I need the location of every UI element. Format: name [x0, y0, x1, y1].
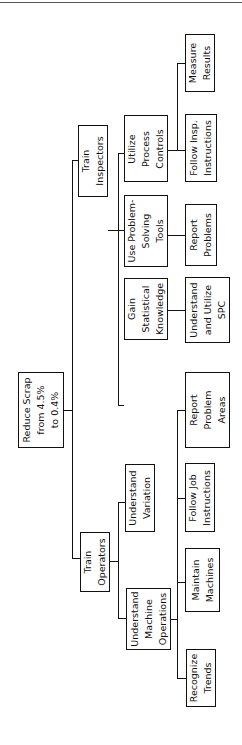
node-label: Gain Statistical Knowledge: [125, 283, 167, 335]
node-understand-utilize-spc: Understand and Utilize SPC: [185, 277, 230, 343]
connector: [168, 235, 185, 236]
connector: [118, 502, 119, 618]
node-label: Measure Results: [186, 43, 214, 83]
page-header-rule: [0, 2, 242, 3]
node-follow-job-instructions: Follow Job Instructions: [185, 463, 215, 532]
connector: [177, 498, 185, 499]
node-label: Understand and Utilize SPC: [187, 282, 229, 337]
connector: [118, 153, 119, 405]
connector: [118, 618, 126, 619]
node-label: Understand Variation: [126, 470, 154, 525]
node-label: Understand Machine Operations: [128, 591, 170, 646]
node-maintain-machines: Maintain Machines: [185, 548, 220, 612]
node-report-problems: Report Problems: [185, 204, 217, 266]
connector: [177, 678, 186, 679]
node-understand-variation: Understand Variation: [125, 464, 155, 532]
connector: [168, 310, 185, 311]
connector: [64, 410, 72, 411]
node-root-reduce-scrap: Reduce Scrap from 4.5% to 0.4%: [18, 372, 64, 448]
node-label: Follow Job Instructions: [186, 470, 214, 526]
node-label: Maintain Machines: [189, 558, 217, 603]
node-label: Reduce Scrap from 4.5% to 0.4%: [20, 377, 62, 442]
connector: [72, 558, 80, 559]
connector: [110, 561, 118, 562]
node-follow-insp-instructions: Follow Insp. Instructions: [185, 114, 217, 182]
node-use-problem-solving-tools: Use Problem- Solving Tools: [124, 195, 168, 267]
node-measure-results: Measure Results: [185, 34, 215, 92]
node-label: Use Problem- Solving Tools: [125, 199, 167, 262]
node-understand-machine-operations: Understand Machine Operations: [126, 588, 171, 650]
node-train-inspectors: Train Inspectors: [78, 125, 108, 197]
connector: [118, 502, 125, 503]
node-label: Train Inspectors: [79, 136, 107, 185]
node-label: Report Problem Areas: [187, 391, 229, 430]
connector: [177, 582, 185, 583]
node-utilize-process-controls: Utilize Process Controls: [124, 115, 168, 182]
node-label: Report Problems: [187, 213, 215, 257]
connector: [177, 410, 185, 411]
connector: [118, 405, 124, 406]
node-gain-statistical-knowledge: Gain Statistical Knowledge: [124, 278, 168, 340]
node-report-problem-areas: Report Problem Areas: [185, 372, 230, 448]
connector: [168, 150, 177, 151]
node-label: Follow Insp. Instructions: [187, 120, 215, 176]
node-train-operators: Train Operators: [80, 532, 110, 592]
connector: [177, 63, 185, 64]
connector: [108, 230, 118, 231]
node-label: Train Operators: [81, 538, 109, 585]
connector: [177, 410, 178, 678]
node-label: Utilize Process Controls: [125, 129, 167, 168]
node-recognize-trends: Recognize Trends: [186, 649, 216, 707]
node-label: Recognize Trends: [187, 654, 215, 703]
connector: [177, 150, 185, 151]
connector-spine: [72, 160, 73, 558]
connector: [177, 63, 178, 151]
